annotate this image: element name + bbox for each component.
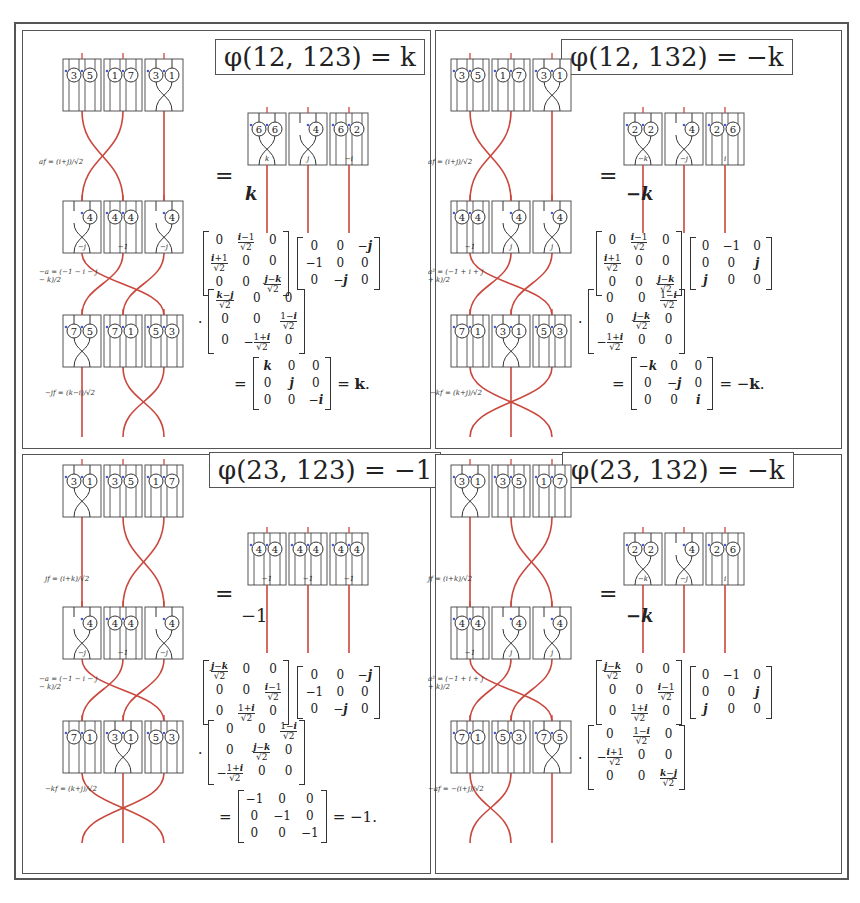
equals-sign: = — [215, 581, 233, 606]
gate-box: 17 — [145, 459, 183, 517]
matrix-cell: 0 — [657, 254, 674, 273]
matrix-cell: 0 — [216, 333, 233, 352]
matrix-cell: −k — [639, 359, 657, 374]
svg-text:6: 6 — [730, 124, 736, 135]
gate-box: 75 — [63, 309, 101, 367]
gate-box: 31 — [533, 53, 571, 111]
matrix-cell: 0 — [273, 792, 291, 807]
svg-text:5: 5 — [128, 476, 134, 487]
gate-box: 31 — [492, 309, 530, 367]
matrix-cell: −j — [333, 702, 347, 717]
matrix-cell: 0 — [596, 291, 623, 310]
matrix-cell: 0 — [633, 769, 650, 788]
gate-box: 44−1 — [248, 527, 286, 585]
svg-text:1: 1 — [500, 70, 506, 81]
svg-text:7: 7 — [112, 326, 118, 337]
gate-box: 22−k — [624, 527, 662, 585]
svg-text:4: 4 — [112, 618, 118, 629]
matrix-cell: 0 — [596, 312, 623, 331]
svg-text:2: 2 — [648, 544, 654, 555]
matrix: k000j000−i — [253, 357, 332, 410]
svg-text:2: 2 — [714, 124, 720, 135]
matrix: 0−1000jj00 — [690, 237, 772, 290]
matrix-cell: 0 — [631, 254, 648, 273]
svg-text:5: 5 — [475, 70, 481, 81]
matrix-cell: 0 — [658, 704, 675, 723]
svg-text:4: 4 — [272, 544, 278, 555]
matrix-cell: 0 — [244, 312, 271, 331]
gate-box: 31 — [63, 459, 101, 517]
matrix-product-line2: ·k−j√200001−i√20−1+i√20 — [198, 289, 305, 354]
matrix-cell: −1 — [305, 685, 323, 700]
svg-text:4: 4 — [313, 124, 319, 135]
matrix-cell: 0 — [216, 722, 243, 741]
svg-text:3: 3 — [112, 476, 118, 487]
svg-text:6: 6 — [730, 544, 736, 555]
matrix-cell: 0 — [631, 683, 648, 702]
panel-phi-23-132: φ(23, 132) = −k 31351744−14j4j71537522−k… — [435, 454, 842, 874]
matrix-cell: 1−i√2 — [633, 727, 650, 746]
svg-text:3: 3 — [459, 70, 465, 81]
svg-text:k: k — [265, 155, 269, 163]
panel-phi-12-123: φ(12, 123) = k 3517314−j44−14−j75715366k… — [22, 30, 431, 449]
matrix: 0i−1√20i+1√20000j−k√2 — [203, 231, 289, 296]
scalar-factor: −k — [626, 183, 654, 204]
gate-box: 4j — [289, 107, 327, 165]
svg-text:1: 1 — [87, 732, 93, 743]
matrix-cell: 0 — [246, 826, 264, 841]
svg-text:1: 1 — [128, 326, 134, 337]
matrix-cell: 0 — [596, 727, 623, 746]
matrix-cell: 0 — [660, 312, 677, 331]
svg-text:4: 4 — [256, 544, 262, 555]
gate-box: 4−j — [665, 527, 703, 585]
gate-box: 53 — [145, 309, 183, 367]
matrix-cell: 0 — [216, 312, 233, 331]
svg-text:−1: −1 — [262, 575, 272, 583]
svg-text:3: 3 — [557, 326, 563, 337]
svg-text:5: 5 — [500, 732, 506, 743]
gate-box: 35 — [451, 53, 489, 111]
multiply-dot: · — [578, 750, 582, 766]
gate-box: 53 — [533, 309, 571, 367]
gate-box: 26i — [706, 527, 744, 585]
matrix-cell: 0 — [305, 702, 323, 717]
matrix-cell: 0 — [358, 702, 372, 717]
matrix-cell: 0 — [660, 748, 677, 767]
side-label: jf = (i+k)/√2 — [45, 575, 89, 583]
matrix-cell: j−k√2 — [604, 662, 621, 681]
matrix: 01−i√20−i+1√20000k−j√2 — [588, 725, 685, 790]
svg-text:3: 3 — [153, 70, 159, 81]
matrix-cell: 0 — [358, 256, 372, 271]
svg-text:2: 2 — [632, 544, 638, 555]
matrix-cell: −1 — [273, 809, 291, 824]
gate-box: 35 — [63, 53, 101, 111]
gate-box: 44−1 — [104, 195, 142, 253]
gate-box: 4−j — [665, 107, 703, 165]
svg-text:1: 1 — [169, 70, 175, 81]
svg-text:−1: −1 — [118, 649, 128, 657]
matrix-cell: i−1√2 — [631, 233, 648, 252]
matrix-cell: i−1√2 — [238, 233, 255, 252]
svg-text:4: 4 — [516, 618, 522, 629]
matrix-cell: 0 — [631, 662, 648, 681]
matrix-cell: 0 — [301, 809, 319, 824]
matrix-cell: 0 — [604, 683, 621, 702]
matrix-cell: 0 — [722, 256, 740, 271]
svg-text:−1: −1 — [465, 243, 475, 251]
matrix-cell: 0 — [722, 702, 740, 717]
gate-box: 62−i — [330, 107, 368, 165]
matrix: k−j√200001−i√20−1+i√20 — [208, 289, 305, 354]
matrix-cell: 0 — [246, 809, 264, 824]
matrix-cell: 0 — [216, 743, 243, 762]
matrix-cell: 0 — [265, 662, 282, 681]
matrix-cell: 0 — [280, 743, 297, 762]
svg-text:1: 1 — [87, 476, 93, 487]
matrix-cell: 0 — [698, 685, 712, 700]
matrix-cell: 0 — [280, 333, 297, 352]
matrix-cell: 0 — [333, 668, 347, 683]
svg-text:1: 1 — [475, 476, 481, 487]
gate-box: 4−j — [63, 195, 101, 253]
matrix-cell: 0 — [333, 239, 347, 254]
matrix-cell: 0 — [285, 359, 299, 374]
matrix: j−k√20000i−1√201+i√20 — [596, 660, 682, 725]
